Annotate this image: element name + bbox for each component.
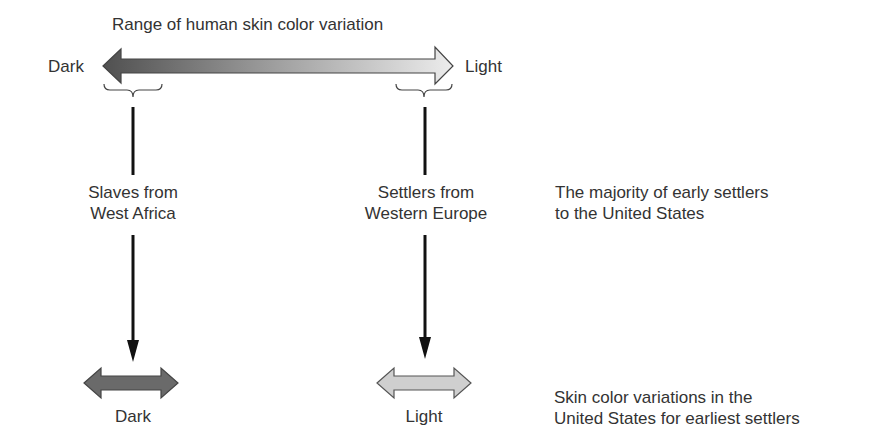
- variation-note-line2: United States for earliest settlers: [554, 409, 800, 429]
- light-range-brace: [396, 84, 452, 97]
- source-west-africa-line2: West Africa: [68, 204, 198, 224]
- dark-variation-arrow: [84, 368, 178, 398]
- source-western-europe-line2: Western Europe: [346, 204, 506, 224]
- range-left-label: Dark: [48, 57, 84, 77]
- diagram-title: Range of human skin color variation: [112, 15, 383, 35]
- source-western-europe-line1: Settlers from: [346, 183, 506, 203]
- dark-range-brace: [104, 84, 162, 97]
- diagram-graphics: [0, 0, 894, 448]
- settlers-note-line1: The majority of early settlers: [555, 183, 769, 203]
- light-variation-arrow: [377, 368, 471, 398]
- light-variation-label: Light: [384, 407, 464, 427]
- range-right-label: Light: [465, 57, 502, 77]
- range-double-arrow: [103, 47, 453, 84]
- dark-variation-label: Dark: [93, 407, 173, 427]
- right-down-arrow: [419, 107, 431, 359]
- source-west-africa-line1: Slaves from: [68, 183, 198, 203]
- settlers-note-line2: to the United States: [555, 204, 704, 224]
- variation-note-line1: Skin color variations in the: [554, 388, 752, 408]
- left-down-arrow: [127, 107, 139, 362]
